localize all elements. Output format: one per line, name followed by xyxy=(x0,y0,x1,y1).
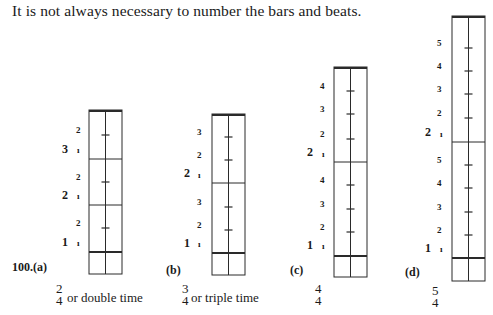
diagram-a-beat-label: 2 xyxy=(76,218,81,228)
diagram-c-beat-label: 3 xyxy=(320,104,325,114)
diagram-d-beat-label: ı xyxy=(440,244,443,254)
diagram-c-beat-label: 4 xyxy=(320,81,325,91)
diagram-a-beat-label: 2 xyxy=(76,172,81,182)
example-label-a: 100.(a) xyxy=(12,260,47,275)
ts-a-bottom: 4 xyxy=(56,295,63,307)
diagram-b-beat-label: 2 xyxy=(197,150,202,160)
diagram-a-beat-label: ı xyxy=(77,191,80,201)
caption-a: or double time xyxy=(67,292,143,304)
diagram-c-beat-label: 2 xyxy=(320,129,325,139)
diagram-d-beat-label: ı xyxy=(440,129,443,139)
diagram-a-beat-label: ı xyxy=(77,145,80,155)
diagram-a-bar-label: 2 xyxy=(62,188,68,203)
diagram-c-bar-label: 2 xyxy=(307,145,313,160)
diagram-d-beat-label: 2 xyxy=(437,225,442,235)
diagram-b-bar-label: 1 xyxy=(184,236,190,251)
diagram-b-label: (b) xyxy=(166,263,181,278)
diagram-d-beat-label: 3 xyxy=(437,84,442,94)
diagram-d-beat-label: 4 xyxy=(437,61,442,71)
diagram-b-beat-label: ı xyxy=(198,170,201,180)
diagram-d-beat-label: 3 xyxy=(437,202,442,212)
diagram-c-beat-label: ı xyxy=(322,149,325,159)
diagram-c-beat-label: ı xyxy=(322,241,325,251)
diagram-c-label: (c) xyxy=(290,263,303,278)
diagram-b-beat-label: ı xyxy=(198,239,201,249)
caption-b: or triple time xyxy=(191,292,259,304)
ts-d-bottom: 4 xyxy=(432,297,439,309)
time-signature-d: 5 4 xyxy=(432,285,439,309)
time-signature-b: 3 4 xyxy=(182,283,189,307)
diagram-b-beat-label: 3 xyxy=(197,197,202,207)
diagram-a-bar-label: 3 xyxy=(62,142,68,157)
ts-b-bottom: 4 xyxy=(182,295,189,307)
ts-c-bottom: 4 xyxy=(315,295,322,307)
diagram-a-beat-label: 2 xyxy=(76,125,81,135)
example-number: 100. xyxy=(12,260,33,274)
diagram-d-beat-label: 2 xyxy=(437,108,442,118)
time-signature-c: 4 4 xyxy=(315,283,322,307)
time-signature-a: 2 4 xyxy=(56,283,63,307)
diagram-d-beat-label: 5 xyxy=(437,155,442,165)
diagram-c-beat-label: 4 xyxy=(320,175,325,185)
diagram-c-bar-label: 1 xyxy=(307,238,313,253)
diagram-b-beat-label: 2 xyxy=(197,220,202,230)
diagram-d-label: (d) xyxy=(405,265,420,280)
diagram-d-bar-label: 2 xyxy=(425,125,431,140)
diagram-b-bar-label: 2 xyxy=(184,166,190,181)
diagram-d-beat-label: 4 xyxy=(437,178,442,188)
diagram-d-bar-label: 1 xyxy=(425,241,431,256)
diagram-c-beat-label: 2 xyxy=(320,222,325,232)
diagram-c-beat-label: 3 xyxy=(320,199,325,209)
diagram-a-bar-label: 1 xyxy=(62,235,68,250)
diagram-a-beat-label: ı xyxy=(77,238,80,248)
diagram-a-label: (a) xyxy=(33,260,47,274)
diagram-b-beat-label: 3 xyxy=(197,127,202,137)
diagram-d-beat-label: 5 xyxy=(437,38,442,48)
